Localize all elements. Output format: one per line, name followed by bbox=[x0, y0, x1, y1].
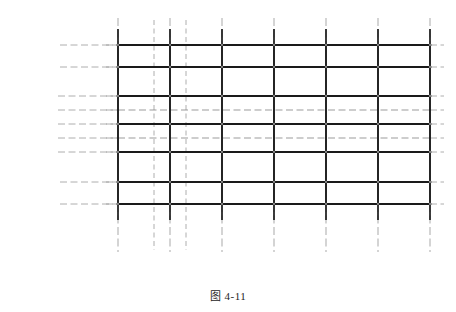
figure-canvas: 图 4-11 bbox=[0, 0, 456, 312]
figure-caption: 图 4-11 bbox=[0, 287, 456, 303]
structural-grid-drawing bbox=[0, 0, 456, 312]
left-extension-lines bbox=[58, 45, 118, 204]
